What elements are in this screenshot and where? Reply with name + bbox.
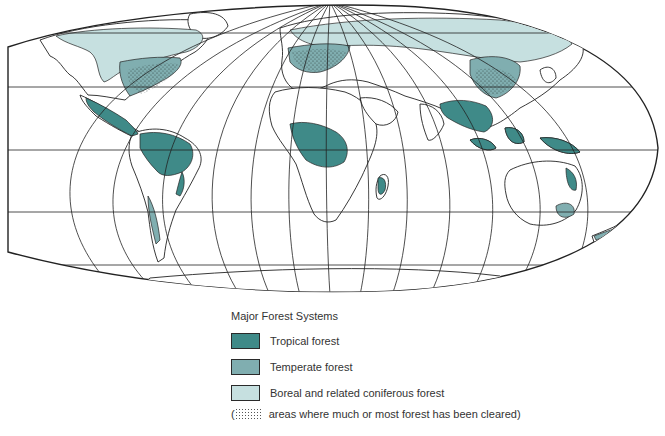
legend-item-tropical: Tropical forest <box>231 330 531 352</box>
legend-item-boreal: Boreal and related coniferous forest <box>231 382 531 404</box>
legend-item-temperate: Temperate forest <box>231 356 531 378</box>
legend-label: Boreal and related coniferous forest <box>270 387 444 399</box>
note-text: areas where much or most forest has been… <box>269 408 521 420</box>
legend-label: Tropical forest <box>270 335 339 347</box>
legend-title: Major Forest Systems <box>231 310 531 322</box>
boreal-swatch <box>231 385 260 401</box>
stipple-swatch-icon <box>235 408 261 420</box>
legend-cleared-note: ( areas where much or most forest has be… <box>231 408 531 420</box>
world-forest-map <box>0 0 665 300</box>
legend-label: Temperate forest <box>270 361 353 373</box>
legend: Major Forest Systems Tropical forest Tem… <box>231 310 531 420</box>
temperate-swatch <box>231 359 260 375</box>
tropical-swatch <box>231 333 260 349</box>
